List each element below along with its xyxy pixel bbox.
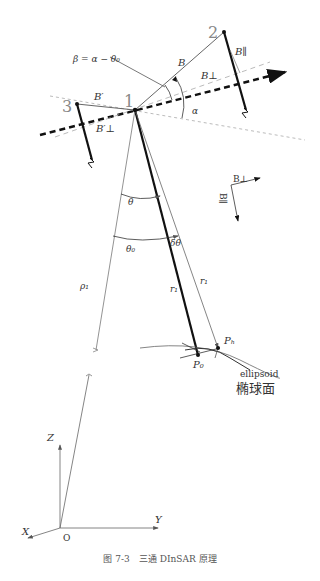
label-B-prime-perp: B′⊥ <box>95 123 115 134</box>
satellite-3-label: 3 <box>62 97 72 116</box>
satellite-1-range-r1 <box>135 110 198 355</box>
satellite-3-dot <box>75 102 79 106</box>
label-theta: θ <box>128 197 134 207</box>
satellite-2-label: 2 <box>208 23 218 42</box>
satellite-3-track <box>77 104 92 160</box>
label-r1-thick: r₁ <box>170 284 178 294</box>
label-rho1: ρ₁ <box>79 281 89 291</box>
satellite-1-label: 1 <box>124 92 134 111</box>
label-B: B <box>177 57 185 68</box>
label-Ph: Pₕ <box>223 335 235 346</box>
legend-Bpar-arrow <box>231 185 238 221</box>
satellite-2-track <box>224 32 246 110</box>
legend-Bpar-label: B∥ <box>218 193 228 204</box>
label-ellipsoid-en: ellipsoid <box>240 369 279 379</box>
theta-arc <box>121 194 160 199</box>
axis-X <box>28 528 60 538</box>
satellite-2-dot <box>222 30 226 34</box>
axis-X-label: X <box>21 526 30 537</box>
label-B-par: B∥ <box>234 46 247 57</box>
range-rho1 <box>96 110 135 350</box>
label-P0: P₀ <box>192 359 204 370</box>
dinsar-diagram: β = α − θ₀ B B∥ B⊥ α B′ B′⊥ 1 2 3 θ θ₀ δ… <box>0 0 320 581</box>
legend-Bperp-label: B⊥ <box>233 174 248 184</box>
label-r1-thin: r₁ <box>200 276 208 286</box>
label-ellipsoid-zh: 椭球面 <box>236 381 275 396</box>
range-to-Ph <box>135 110 218 348</box>
thin-dashed-line-lower <box>50 96 305 140</box>
axis-Y-label: Y <box>155 514 163 525</box>
thin-dashed-line-upper <box>55 62 270 137</box>
figure-caption: 图 7-3 三通 DInSAR 原理 <box>103 554 216 564</box>
origin-label: O <box>63 533 70 543</box>
label-dtheta: δθ <box>170 238 181 248</box>
axis-Z-label: Z <box>46 432 55 443</box>
label-alpha: α <box>192 106 198 116</box>
label-theta0: θ₀ <box>126 244 135 254</box>
label-B-prime: B′ <box>93 91 104 102</box>
position-vector <box>60 375 89 528</box>
P0-dot <box>196 353 200 357</box>
Ph-dot <box>216 346 220 350</box>
beta-equation: β = α − θ₀ <box>72 54 120 64</box>
label-B-perp: B⊥ <box>200 70 218 81</box>
